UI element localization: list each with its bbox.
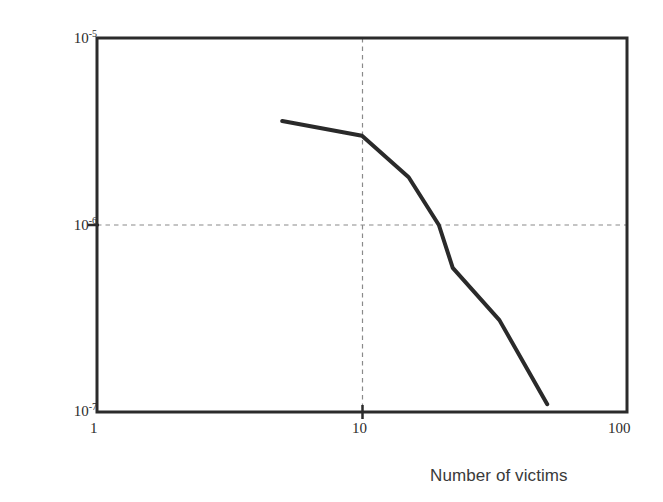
- xtick-label-1: 1: [90, 421, 98, 436]
- ytick-top-exponent: -5: [89, 28, 97, 39]
- ytick-mid-exponent: -6: [89, 215, 97, 226]
- plot-area: [0, 0, 663, 502]
- ytick-bottom-mantissa: 10: [74, 403, 89, 419]
- ytick-label-top: 10-5: [74, 31, 97, 46]
- xtick-label-100: 100: [608, 421, 631, 436]
- chart-figure: 10-5 10-6 10-7 1 10 100 Number of victim…: [0, 0, 663, 502]
- ytick-mid-mantissa: 10: [74, 217, 89, 233]
- xtick-label-10: 10: [352, 421, 367, 436]
- ytick-bottom-exponent: -7: [89, 401, 97, 412]
- ytick-label-mid: 10-6: [74, 218, 97, 233]
- ytick-label-bottom: 10-7: [74, 404, 97, 419]
- ytick-top-mantissa: 10: [74, 30, 89, 46]
- x-axis-title: Number of victims: [430, 466, 568, 486]
